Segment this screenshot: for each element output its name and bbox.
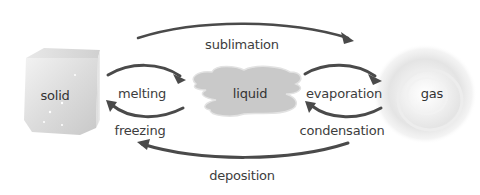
sublimation-arrowhead — [341, 32, 354, 44]
deposition-arrowhead — [137, 139, 150, 150]
evaporation-arrow — [305, 65, 375, 76]
gas-label: gas — [421, 86, 443, 101]
liquid-label: liquid — [233, 86, 267, 101]
freezing-arrow — [112, 105, 183, 117]
melting-arrow — [108, 65, 180, 76]
condensation-arrow — [312, 106, 381, 117]
sublimation-label: sublimation — [205, 37, 279, 52]
freezing-label: freezing — [115, 123, 166, 138]
deposition-arrow — [142, 143, 348, 157]
solid-label: solid — [40, 88, 69, 103]
deposition-label: deposition — [209, 168, 275, 183]
melting-label: melting — [118, 86, 166, 101]
condensation-label: condensation — [299, 123, 384, 138]
evaporation-label: evaporation — [306, 86, 382, 101]
